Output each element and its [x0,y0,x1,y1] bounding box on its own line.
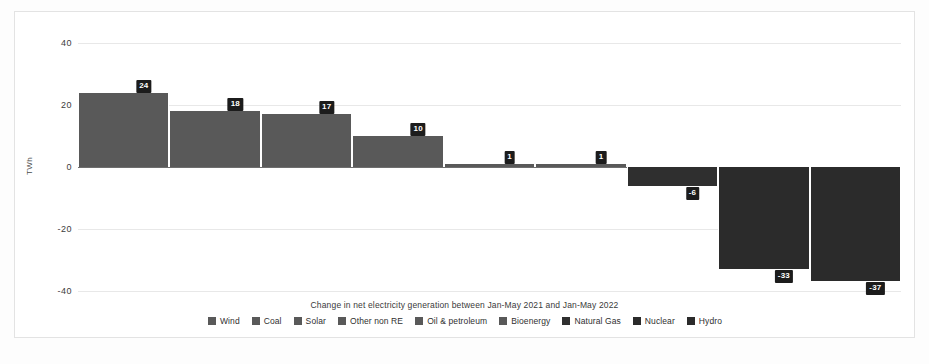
legend-item-other-non-re[interactable]: Other non RE [337,316,403,326]
legend-swatch-icon [561,316,571,326]
legend-label: Wind [220,316,240,326]
bar-other-non-re[interactable] [352,136,443,167]
y-tick-label: 0 [40,162,72,172]
bar-nuclear[interactable] [718,167,809,269]
legend-swatch-icon [251,316,261,326]
bar-coal[interactable] [169,111,260,167]
bar-bioenergy[interactable] [535,164,626,167]
y-tick-label: -20 [40,224,72,234]
y-axis-label: TWh [25,157,34,175]
legend-label: Nuclear [645,316,675,326]
legend-item-oil-petroleum[interactable]: Oil & petroleum [414,316,487,326]
data-label: -33 [775,270,793,283]
legend-item-hydro[interactable]: Hydro [686,316,722,326]
legend-item-bioenergy[interactable]: Bioenergy [498,316,550,326]
legend-label: Hydro [699,316,722,326]
gridline-20 [78,105,901,106]
y-tick-label: -40 [40,286,72,296]
plot-area: 40200-20-40 2418171011-6-33-37 [78,28,901,306]
legend-item-wind[interactable]: Wind [207,316,240,326]
data-label: 17 [319,101,334,114]
legend-label: Bioenergy [511,316,550,326]
legend-item-coal[interactable]: Coal [251,316,282,326]
legend-swatch-icon [414,316,424,326]
y-tick-label: 20 [40,100,72,110]
legend-item-solar[interactable]: Solar [293,316,326,326]
legend-label: Other non RE [350,316,403,326]
data-label: 1 [596,151,607,164]
legend-swatch-icon [498,316,508,326]
chart-legend: WindCoalSolarOther non REOil & petroleum… [0,316,929,326]
legend-item-natural-gas[interactable]: Natural Gas [561,316,620,326]
chart-figure: TWh 40200-20-40 2418171011-6-33-37 Chang… [0,0,929,364]
legend-label: Solar [306,316,326,326]
legend-label: Oil & petroleum [427,316,487,326]
bar-wind[interactable] [78,93,169,167]
legend-label: Natural Gas [574,316,620,326]
legend-swatch-icon [337,316,347,326]
legend-swatch-icon [686,316,696,326]
data-label: 10 [411,123,426,136]
legend-swatch-icon [632,316,642,326]
bar-solar[interactable] [261,114,352,167]
y-tick-label: 40 [40,38,72,48]
legend-item-nuclear[interactable]: Nuclear [632,316,675,326]
legend-swatch-icon [293,316,303,326]
gridline--40 [78,291,901,292]
bar-oil-petroleum[interactable] [444,164,535,167]
legend-swatch-icon [207,316,217,326]
data-label: 1 [504,151,515,164]
data-label: -37 [866,282,884,295]
legend-label: Coal [264,316,282,326]
gridline-40 [78,43,901,44]
bar-natural-gas[interactable] [627,167,718,186]
data-label: 18 [228,98,243,111]
bar-hydro[interactable] [810,167,901,281]
data-label: -6 [686,187,700,200]
chart-title: Change in net electricity generation bet… [0,300,929,310]
data-label: 24 [136,80,151,93]
